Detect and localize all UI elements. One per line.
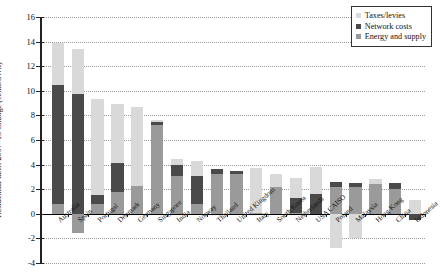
y-tick-mark — [36, 91, 44, 92]
legend-item: Taxes/levies — [356, 11, 426, 20]
y-tick-label: 8 — [9, 111, 35, 120]
chart-legend: Taxes/levies Network costs Energy and su… — [351, 6, 432, 47]
y-tick-mark — [36, 17, 44, 18]
legend-item: Network costs — [356, 22, 426, 31]
y-tick-mark — [36, 140, 44, 141]
y-tick-label: 0 — [9, 210, 35, 219]
legend-item-label: Taxes/levies — [365, 11, 405, 20]
y-tick-label: 6 — [9, 136, 35, 145]
y-tick-label: -4 — [9, 259, 35, 268]
y-tick-mark — [36, 165, 44, 166]
y-tick-mark — [36, 238, 44, 239]
legend-item-label: Energy and supply — [365, 32, 426, 41]
y-tick-label: 12 — [9, 62, 35, 71]
y-tick-mark — [36, 66, 44, 67]
y-tick-label: -2 — [9, 234, 35, 243]
square-swatch-icon — [356, 24, 361, 29]
y-tick-mark — [36, 214, 44, 215]
y-tick-label: 2 — [9, 185, 35, 194]
square-swatch-icon — [356, 34, 361, 39]
y-tick-label: 16 — [9, 13, 35, 22]
square-swatch-icon — [356, 13, 361, 18]
legend-item-label: Network costs — [365, 22, 412, 31]
y-tick-mark — [36, 189, 44, 190]
plot-area — [40, 17, 425, 263]
y-tick-label: 10 — [9, 87, 35, 96]
y-tick-mark — [36, 115, 44, 116]
y-tick-mark — [36, 263, 44, 264]
y-tick-marks — [40, 17, 425, 263]
y-axis-title: Residential tariff 2007–13 Change (cents… — [0, 62, 3, 217]
y-tick-mark — [36, 42, 44, 43]
gridline — [40, 263, 425, 264]
y-tick-label: 4 — [9, 161, 35, 170]
y-tick-label: 14 — [9, 38, 35, 47]
legend-item: Energy and supply — [356, 32, 426, 41]
